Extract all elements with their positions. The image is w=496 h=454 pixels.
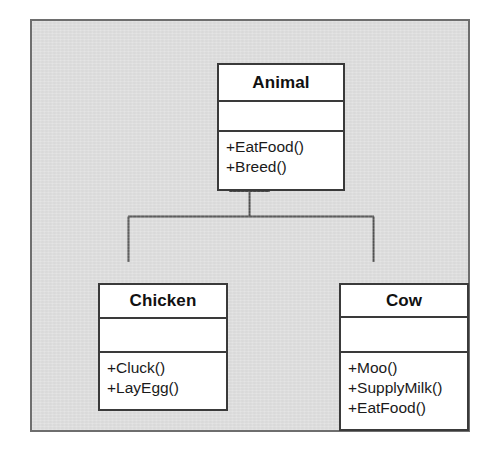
operation-item: +Breed() (226, 157, 343, 177)
class-attributes-cow (341, 318, 467, 353)
class-attributes-chicken (100, 319, 226, 353)
scan-page: Animal +EatFood() +Breed() Chicken +Cluc… (0, 0, 496, 454)
uml-class-cow[interactable]: Cow +Moo() +SupplyMilk() +EatFood() (339, 283, 469, 431)
class-attributes-animal (219, 102, 343, 132)
operation-item: +SupplyMilk() (348, 378, 467, 398)
operation-item: +EatFood() (348, 398, 467, 418)
operation-item: +Cluck() (107, 358, 226, 378)
class-name-animal: Animal (219, 65, 343, 102)
uml-class-animal[interactable]: Animal +EatFood() +Breed() (217, 63, 345, 191)
class-name-chicken: Chicken (100, 285, 226, 319)
uml-class-chicken[interactable]: Chicken +Cluck() +LayEgg() (98, 283, 228, 411)
class-name-cow: Cow (341, 285, 467, 318)
operation-item: +Moo() (348, 358, 467, 378)
class-operations-chicken: +Cluck() +LayEgg() (100, 353, 226, 409)
operation-item: +EatFood() (226, 137, 343, 157)
operation-item: +LayEgg() (107, 378, 226, 398)
class-operations-cow: +Moo() +SupplyMilk() +EatFood() (341, 353, 467, 429)
diagram-frame: Animal +EatFood() +Breed() Chicken +Cluc… (30, 19, 470, 432)
class-operations-animal: +EatFood() +Breed() (219, 132, 343, 189)
